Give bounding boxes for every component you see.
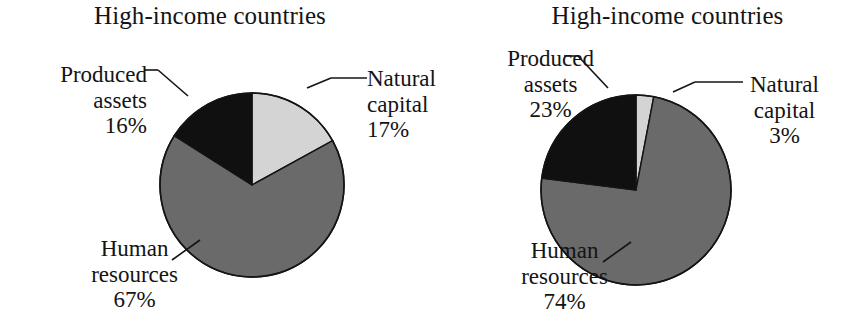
leader-line-natural-capital-left xyxy=(307,66,369,96)
slice-label-name-line2: assets xyxy=(60,88,147,114)
slice-label-name-line1: Natural xyxy=(750,72,819,98)
chart-panel-left: High-income countries xyxy=(0,0,430,336)
leader-line-natural-capital-right xyxy=(673,70,745,100)
slice-label-natural-capital-left: Natural capital 17% xyxy=(367,66,436,143)
slice-label-name-line2: resources xyxy=(521,264,608,290)
slice-label-value: 67% xyxy=(91,287,178,313)
slice-label-name-line1: Human xyxy=(91,236,178,262)
slice-label-name-line2: assets xyxy=(507,72,594,98)
slice-label-value: 23% xyxy=(507,97,594,123)
leader-line-human-resources-right xyxy=(603,240,637,268)
slice-label-name-line1: Produced xyxy=(60,62,147,88)
slice-label-human-resources-right: Human resources 74% xyxy=(521,238,608,315)
slice-label-produced-assets-left: Produced assets 16% xyxy=(60,62,147,139)
slice-label-name-line2: capital xyxy=(750,98,819,124)
slice-label-name-line2: resources xyxy=(91,262,178,288)
leader-line-produced-assets-left xyxy=(144,62,196,102)
slice-label-name-line1: Produced xyxy=(507,46,594,72)
slice-label-value: 17% xyxy=(367,117,436,143)
slice-label-name-line1: Human xyxy=(521,238,608,264)
chart-title-right: High-income countries xyxy=(452,2,861,30)
chart-panel-right: High-income countries xyxy=(430,0,861,336)
slice-label-human-resources-left: Human resources 67% xyxy=(91,236,178,313)
pie-chart-figure: High-income countries xyxy=(0,0,861,336)
slice-label-value: 3% xyxy=(750,123,819,149)
slice-label-name-line2: capital xyxy=(367,92,436,118)
chart-title-left: High-income countries xyxy=(0,2,425,30)
slice-label-value: 74% xyxy=(521,289,608,315)
slice-label-natural-capital-right: Natural capital 3% xyxy=(750,72,819,149)
slice-label-value: 16% xyxy=(60,113,147,139)
slice-label-name-line1: Natural xyxy=(367,66,436,92)
slice-label-produced-assets-right: Produced assets 23% xyxy=(507,46,594,123)
